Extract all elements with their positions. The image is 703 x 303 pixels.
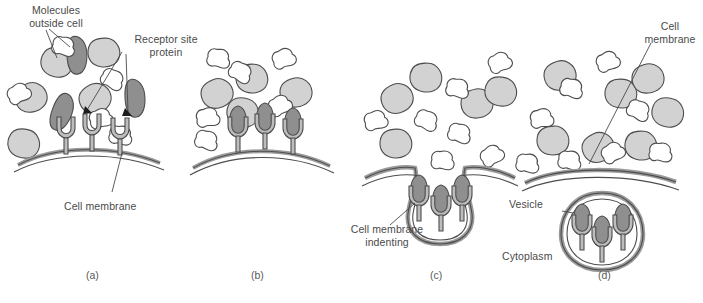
panel-letter-b: (b) [251,269,264,281]
label-cytoplasm: Cytoplasm [502,250,553,263]
label-vesicle: Vesicle [509,198,543,211]
panel-b [190,46,334,175]
panel-letter-c: (c) [430,269,442,281]
panel-c [362,49,541,244]
panel-b-cell-membrane [193,151,330,168]
panel-c-leader-lines [390,203,415,225]
label-cell-membrane-indenting: Cell membrane indenting [339,223,435,248]
panel-letter-a: (a) [86,269,99,281]
label-receptor-site-protein: Receptor site protein [124,33,208,58]
panel-d [522,43,688,270]
panel-b-receptors-bound [228,103,303,154]
panel-letter-d: (d) [598,269,611,281]
panel-d-membrane-inner [522,177,679,191]
diagram-canvas [0,0,703,303]
label-molecules-outside-cell: Molecules outside cell [14,4,98,29]
label-cell-membrane-a: Cell membrane [64,200,137,213]
panel-d-cell-membrane [525,170,676,183]
panel-c-molecules [378,60,521,160]
label-cell-membrane-d: Cell membrane [639,20,701,45]
endocytosis-figure: Molecules outside cell Receptor site pro… [0,0,703,303]
